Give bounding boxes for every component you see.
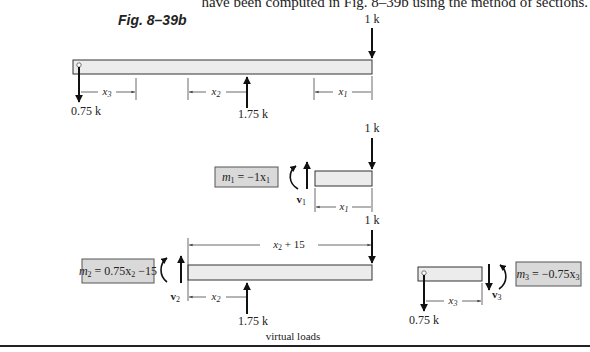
- figure-label: Fig. 8–39b: [118, 12, 187, 28]
- dim-x3: x3: [102, 85, 112, 99]
- bottom-rule: [0, 345, 590, 347]
- dim-x1: x1: [338, 85, 348, 99]
- section-2-group: 1 k m2 = 0.75x2 −15 v2 x2 + 15 x2 1.75 k: [79, 213, 380, 328]
- section3-beam: [418, 267, 482, 281]
- dim-x3-section: x3: [448, 294, 458, 308]
- shear-v2-label: v2: [171, 290, 181, 304]
- mid-reaction-label: 1.75 k: [238, 107, 268, 121]
- dim-x2-section: x2: [211, 290, 221, 304]
- section2-reaction-label: 1.75 k: [238, 314, 268, 328]
- left-reaction-label: 0.75 k: [71, 104, 101, 118]
- full-beam-group: 1 k 0.75 k 1.75 k x3 x2 x1: [71, 12, 380, 121]
- shear-v3-label: v3: [492, 288, 502, 302]
- moment-curl-icon: [499, 265, 506, 289]
- section3-reaction-label: 0.75 k: [409, 313, 439, 327]
- moment-m1-label: m1 = −1x1: [222, 170, 270, 185]
- dim-x2-plus-15: x2 + 15: [272, 238, 305, 252]
- section-1-group: 1 k m1 = −1x1 v1 x1: [215, 121, 380, 214]
- section-3-group: 0.75 k v3 m3 = −0.75x3 x3: [409, 262, 581, 327]
- body-text-fragment: have been computed in Fig. 8–39b using t…: [201, 0, 588, 10]
- full-load-label: 1 k: [365, 12, 380, 26]
- section1-load-label: 1 k: [365, 121, 380, 135]
- figure-8-39b-diagram: have been computed in Fig. 8–39b using t…: [0, 0, 590, 352]
- full-beam: [73, 60, 372, 74]
- moment-curl-icon: [161, 258, 167, 282]
- dim-x2: x2: [211, 85, 221, 99]
- dim-x1-section: x1: [339, 200, 349, 214]
- virtual-loads-caption: virtual loads: [266, 330, 321, 342]
- pin-icon: [422, 271, 426, 275]
- section2-beam: [188, 265, 372, 280]
- moment-curl-icon: [290, 166, 298, 189]
- section1-beam: [315, 171, 372, 186]
- pin-icon: [77, 63, 81, 67]
- moment-m2-label: m2 = 0.75x2 −15: [79, 264, 157, 279]
- shear-v1-label: v1: [297, 193, 307, 207]
- section2-load-label: 1 k: [365, 213, 380, 227]
